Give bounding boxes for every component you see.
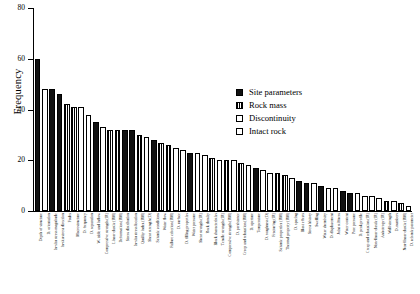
y-tick-mark [28, 160, 33, 161]
legend-item-intact: Intact rock [236, 125, 302, 138]
x-tick-label: Creep and relaxation (IR) [366, 213, 370, 253]
x-tick-label: Depth of structure [39, 213, 43, 241]
x-tick-label: D. aperture [250, 213, 254, 231]
legend-swatch-disc-icon [236, 115, 243, 122]
x-tick-label: D. peak profile [359, 213, 363, 236]
bar [129, 130, 135, 211]
bar [78, 107, 84, 211]
x-tick-label: Faults [68, 213, 72, 223]
x-tick-label: Non-linear elastic (IR) [374, 213, 378, 248]
x-tick-label: D. orientation [47, 213, 51, 235]
x-tick-label: D. numbers [395, 213, 399, 231]
x-tick-label: Rock density [206, 213, 210, 233]
x-axis-labels: Depth of structureD. orientationIn-situ … [34, 213, 412, 294]
bar [326, 188, 332, 211]
bar [267, 173, 273, 211]
bar [137, 135, 143, 211]
bar [86, 115, 92, 211]
x-tick-label: Fracturing (IR) [272, 213, 276, 237]
bar-series [34, 8, 412, 211]
bar [93, 122, 99, 211]
x-tick-label: D. spacing [294, 213, 298, 230]
legend-item-site: Site parameters [236, 86, 302, 99]
bar [115, 130, 121, 211]
legend-label: Discontinuity [249, 114, 296, 123]
x-tick-label: Water chemistry [323, 213, 327, 239]
bar [333, 188, 339, 211]
bar [231, 160, 237, 211]
x-tick-label: Wall strength [388, 213, 392, 234]
bar [166, 145, 172, 211]
x-tick-label: Creep and relaxation (RM) [243, 213, 247, 255]
x-tick-label: Water content [345, 213, 349, 235]
bar [42, 89, 48, 211]
bar [398, 203, 404, 211]
y-tick-label: 60 [8, 55, 25, 63]
x-tick-label: Joint stiffness [337, 213, 341, 234]
x-tick-label: Block characteristics [214, 213, 218, 246]
bar [362, 196, 368, 211]
bar [144, 137, 150, 211]
legend-label: Intact rock [249, 127, 286, 136]
x-tick-label: Water flow [163, 213, 167, 230]
legend-swatch-site-icon [236, 89, 243, 96]
x-tick-label: In-situ stress magnitude [54, 213, 58, 250]
bar [217, 160, 223, 211]
bar [100, 127, 106, 211]
x-tick-label: Quality index (RM) [141, 213, 145, 244]
legend-item-disc: Discontinuity [236, 112, 302, 125]
bar [282, 175, 288, 211]
x-tick-label: Seismic conditions [156, 213, 160, 243]
y-tick-label: 80 [8, 4, 25, 12]
y-tick-mark [28, 59, 33, 60]
x-tick-label: Failure criterion (RM) [170, 213, 174, 248]
x-tick-label: D. displacement [330, 213, 334, 238]
x-tick-label: D. filling properties [185, 213, 189, 244]
bar [238, 163, 244, 211]
x-tick-label: D. persistence [236, 213, 240, 235]
legend-label: Site parameters [249, 88, 302, 97]
bar [318, 186, 324, 211]
x-tick-label: Shear strength (IR) [199, 213, 203, 243]
bar [209, 158, 215, 211]
legend-swatch-intact-icon [236, 128, 243, 135]
x-tick-label: Seismic properties (RM) [279, 213, 283, 251]
bar [406, 206, 412, 211]
bar [57, 94, 63, 211]
bar [275, 173, 281, 211]
bar [391, 201, 397, 211]
y-tick-mark [28, 110, 33, 111]
bar [260, 170, 266, 211]
bar [340, 191, 346, 211]
x-tick-label: Blast effects [301, 213, 305, 232]
x-tick-label: Compressive strength (RM) [228, 213, 232, 256]
bar [355, 193, 361, 211]
x-tick-label: Stress history [308, 213, 312, 234]
y-tick-mark [28, 8, 33, 9]
x-tick-label: Anisotropy (IR) [381, 213, 385, 238]
bar [71, 107, 77, 211]
bar [195, 153, 201, 211]
x-tick-label: Shear strength (D) [148, 213, 152, 242]
x-tick-label: Tensile strength (IR) [221, 213, 225, 245]
x-tick-label: Swelling [315, 213, 319, 227]
bar [224, 160, 230, 211]
legend-item-rock: Rock mass [236, 99, 302, 112]
bar [49, 89, 55, 211]
x-tick-label: D. separation [90, 213, 94, 234]
x-tick-label: Compressive strength (IR) [105, 213, 109, 254]
bar [384, 201, 390, 211]
x-tick-label: D. roughness (D) [265, 213, 269, 240]
bar [253, 168, 259, 211]
y-tick-label: 0 [8, 207, 25, 215]
legend-swatch-rock-icon [236, 102, 243, 109]
bar [151, 140, 157, 211]
y-tick-mark [28, 211, 33, 212]
bar [369, 196, 375, 211]
bar [202, 155, 208, 211]
bar [64, 104, 70, 211]
bar [173, 148, 179, 211]
bar [311, 183, 317, 211]
x-tick-label: Water pressure [192, 213, 196, 236]
x-tick-label: Deformation (RM) [119, 213, 123, 243]
